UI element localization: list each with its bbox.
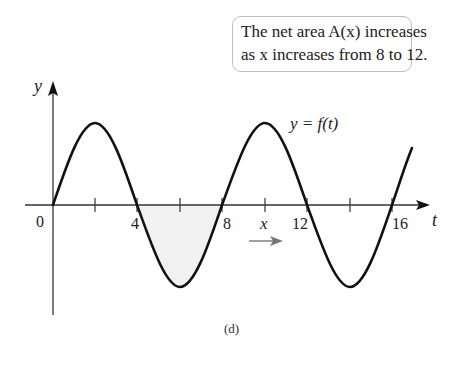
tick-label-8: 8 <box>223 215 231 232</box>
tick-label-12: 12 <box>292 215 308 232</box>
figure-caption: (d) <box>0 321 463 337</box>
tick-label-16: 16 <box>392 215 408 232</box>
origin-label: 0 <box>36 213 44 230</box>
chart-plot: y t 0 4 8 x 12 16 y = f(t) <box>0 0 463 373</box>
tick-label-x: x <box>259 214 268 233</box>
t-axis-label: t <box>432 210 438 230</box>
tick-label-4: 4 <box>131 215 139 232</box>
x-increasing-arrow-icon <box>249 236 283 246</box>
shaded-region <box>137 205 222 287</box>
y-axis-label: y <box>32 76 42 96</box>
curve-label: y = f(t) <box>288 114 339 133</box>
